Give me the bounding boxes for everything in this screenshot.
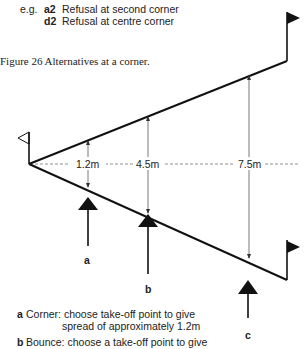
arrow-label-a: a xyxy=(84,254,90,266)
arrow-up-icon xyxy=(78,197,98,210)
note-key-b: b xyxy=(17,336,23,348)
flag-outline-icon xyxy=(18,132,29,144)
flag-icon xyxy=(287,12,300,24)
note-line-a2: spread of approximately 1.2m xyxy=(62,320,200,332)
measurement-2: 4.5m xyxy=(136,158,159,170)
corner-diagram xyxy=(0,0,308,349)
note-line-a1: Corner: choose take-off point to give xyxy=(26,308,195,320)
arrow-label-c: c xyxy=(245,329,251,341)
arrow-label-b: b xyxy=(145,283,151,295)
arrow-up-icon xyxy=(238,280,258,294)
measurement-3: 7.5m xyxy=(238,158,261,170)
note-key-a: a xyxy=(17,308,23,320)
measurement-1: 1.2m xyxy=(76,158,99,170)
flag-icon xyxy=(287,241,300,253)
note-line-b1: Bounce: choose a take-off point to give xyxy=(26,336,207,348)
